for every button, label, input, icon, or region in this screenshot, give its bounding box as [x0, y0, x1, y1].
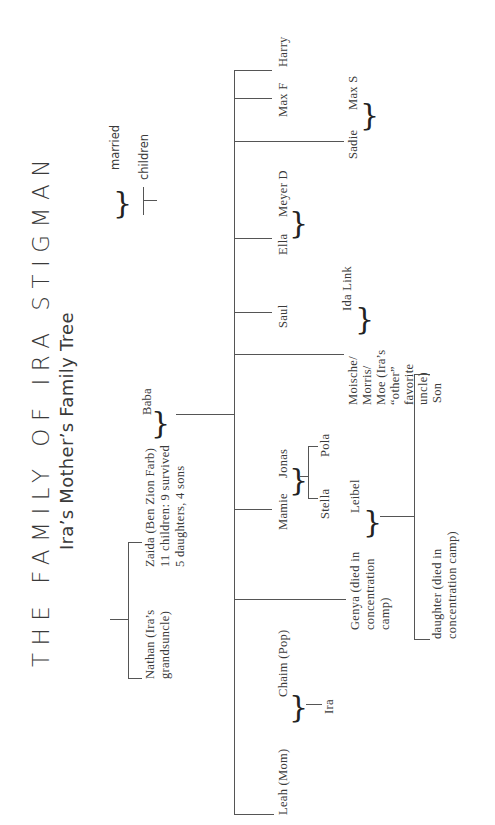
stella-connector — [308, 498, 318, 499]
sadie-connector — [234, 141, 344, 142]
zaida-connector — [128, 542, 142, 543]
page-subtitle: Ira’s Mother’s Family Tree — [56, 312, 77, 550]
mamie-kids-bar — [308, 447, 309, 499]
person-leibel: Leibel — [348, 479, 363, 513]
person-moische: Moische/ Morris/ Moe (Ira’s “other” favo… — [346, 350, 430, 405]
moische-connector — [234, 354, 344, 355]
genya-connector — [234, 599, 346, 600]
tee-icon — [143, 187, 144, 215]
person-meyer-d: Meyer D — [276, 170, 291, 217]
legend-children-label: children — [137, 134, 151, 180]
mamie-connector — [234, 509, 272, 510]
leah-connector — [234, 814, 274, 815]
person-baba: Baba — [140, 388, 155, 415]
person-stella: Stella — [318, 489, 333, 519]
nathan-zaida-parent-stub — [110, 619, 128, 620]
family-tree-canvas: THE FAMILY OF IRA STIGMAN Ira’s Mother’s… — [0, 0, 495, 825]
person-genya: Genya (died in concentration camp) — [348, 552, 393, 630]
genya-kids-drop — [380, 516, 414, 517]
married-brace-icon: } — [113, 188, 133, 218]
pola-connector — [308, 446, 318, 447]
person-harry: Harry — [276, 36, 291, 67]
ira-connector — [306, 704, 322, 705]
person-chaim: Chaim (Pop) — [276, 629, 291, 697]
person-ira: Ira — [322, 699, 337, 714]
saul-connector — [234, 312, 272, 313]
person-jonas: Jonas — [276, 449, 291, 478]
moische-ida-married-brace-icon: } — [355, 304, 375, 334]
mamie-kids-drop — [300, 476, 308, 477]
person-ida-link: Ida Link — [340, 266, 355, 311]
nathan-connector — [128, 678, 142, 679]
person-nathan: Nathan (Ira’s grandsuncle) — [143, 610, 173, 680]
tee-icon-stem — [143, 200, 157, 201]
sadie-maxs-married-brace-icon: } — [360, 100, 380, 130]
person-zaida: Zaida (Ben Zion Farb) 11 children: 9 sur… — [143, 445, 188, 567]
page-title: THE FAMILY OF IRA STIGMAN — [28, 152, 54, 667]
mamie-jonas-married-brace-icon: } — [289, 465, 309, 495]
leah-chaim-married-brace-icon: } — [289, 692, 309, 722]
daughter-connector — [414, 639, 430, 640]
ella-connector — [234, 238, 272, 239]
genya-kids-bar — [414, 375, 415, 640]
children-spine — [234, 70, 235, 815]
nathan-zaida-sibling-bar — [128, 543, 129, 679]
person-leah: Leah (Mom) — [276, 748, 291, 815]
ella-meyer-married-brace-icon: } — [289, 208, 309, 238]
maxf-connector — [234, 98, 272, 99]
person-sadie: Sadie — [346, 130, 361, 159]
person-saul: Saul — [276, 305, 291, 328]
person-pola: Pola — [318, 434, 333, 457]
person-max-f: Max F — [276, 83, 291, 118]
harry-connector — [234, 70, 272, 71]
person-daughter: daughter (died in concentration camp) — [430, 531, 460, 639]
legend-married-label: married — [108, 125, 122, 170]
genya-leibel-married-brace-icon: } — [363, 507, 383, 537]
person-max-s: Max S — [346, 76, 361, 111]
children-drop-line — [176, 414, 234, 415]
person-son: Son — [430, 383, 445, 403]
person-mamie: Mamie — [276, 493, 291, 530]
